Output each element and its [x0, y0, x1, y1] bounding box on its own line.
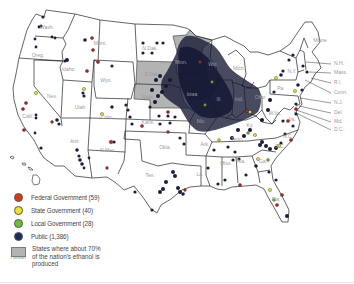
state-label: La. — [197, 171, 204, 177]
state-label: R.I. — [334, 79, 342, 85]
state-label: Nebr. — [142, 94, 154, 100]
state-label: Calif. — [22, 113, 33, 119]
callout-state-labels: N.H.Mass.R.I.Conn.N.J.Del.Md.D.C. — [334, 60, 347, 132]
state-label: Ind. — [235, 96, 243, 102]
state-label: Oreg. — [32, 52, 45, 58]
state-label: Okla. — [159, 144, 171, 150]
federal-dot-icon — [14, 193, 23, 202]
state-label: Maine — [313, 37, 327, 43]
bottom-divider — [0, 282, 354, 283]
state-label: Ill. — [217, 96, 222, 102]
state-label: Del. — [334, 109, 343, 115]
legend-item-federal: Federal Government (59) — [14, 191, 184, 203]
state-label: Mass. — [334, 69, 347, 75]
state-label: Wis. — [208, 61, 218, 67]
state-label: N.C. — [283, 133, 293, 139]
state-label: Utah — [75, 104, 86, 110]
state-label: Ariz. — [70, 138, 80, 144]
state-label: Mo. — [197, 118, 205, 124]
state-label: Ga. — [259, 158, 267, 164]
state-label: Ark. — [201, 141, 210, 147]
state-label: N.Mex. — [100, 147, 116, 153]
state-label: Idaho — [62, 66, 75, 72]
state-label: Miss. — [220, 160, 232, 166]
shaded-area-swatch-icon — [11, 247, 26, 257]
state-label: Colo. — [101, 114, 113, 120]
legend-label-state: State Government (40) — [31, 207, 93, 214]
state-label: N.H. — [334, 60, 344, 66]
state-label: Mont. — [94, 40, 107, 46]
state-label: Fla. — [272, 196, 280, 202]
state-label: Nev. — [47, 93, 57, 99]
legend-item-public: Public (1,386) — [14, 230, 184, 242]
state-label: Tex. — [145, 172, 154, 178]
state-label: N.J. — [334, 99, 343, 105]
legend-item-state: State Government (40) — [14, 204, 184, 216]
legend-item-local: Local Government (28) — [14, 217, 184, 229]
state-label: W.Va. — [269, 110, 282, 116]
legend-label-public: Public (1,386) — [31, 233, 68, 240]
state-label: Wyo. — [100, 77, 111, 83]
state-dot-icon — [14, 206, 23, 215]
legend-label-local: Local Government (28) — [31, 220, 93, 227]
state-label: Tenn. — [231, 136, 243, 142]
map-legend: Federal Government (59) State Government… — [14, 191, 184, 268]
state-label: N.Dak. — [142, 45, 157, 51]
state-label: Kans. — [142, 119, 155, 125]
callout-lines — [294, 62, 331, 130]
state-label: Pa. — [277, 85, 285, 91]
state-label: Wash. — [40, 24, 54, 30]
legend-item-shaded-states: States where about 70% of the nation's e… — [14, 245, 184, 268]
state-label: S.Dak. — [144, 71, 159, 77]
state-label: Va. — [288, 116, 295, 122]
state-label: Md. — [334, 118, 342, 124]
state-label: Mich. — [233, 65, 245, 71]
state-label: Conn. — [334, 89, 347, 95]
state-label: Iowa — [187, 91, 198, 97]
hawaii — [10, 156, 40, 185]
state-label: Minn. — [175, 59, 187, 65]
state-label: Ala. — [237, 158, 246, 164]
state-label: Ky. — [247, 122, 254, 128]
state-label: N.Y. — [287, 68, 296, 74]
legend-label-shaded-states: States where about 70% of the nation's e… — [32, 245, 102, 268]
state-label: Ohio — [255, 94, 266, 100]
public-facility-cluster — [150, 36, 272, 140]
public-facility-dots — [34, 15, 309, 218]
local-dot-icon — [14, 219, 23, 228]
legend-label-federal: Federal Government (59) — [31, 194, 99, 201]
state-label: S.C. — [275, 143, 285, 149]
public-dot-icon — [14, 232, 23, 241]
state-label: D.C. — [334, 126, 344, 132]
